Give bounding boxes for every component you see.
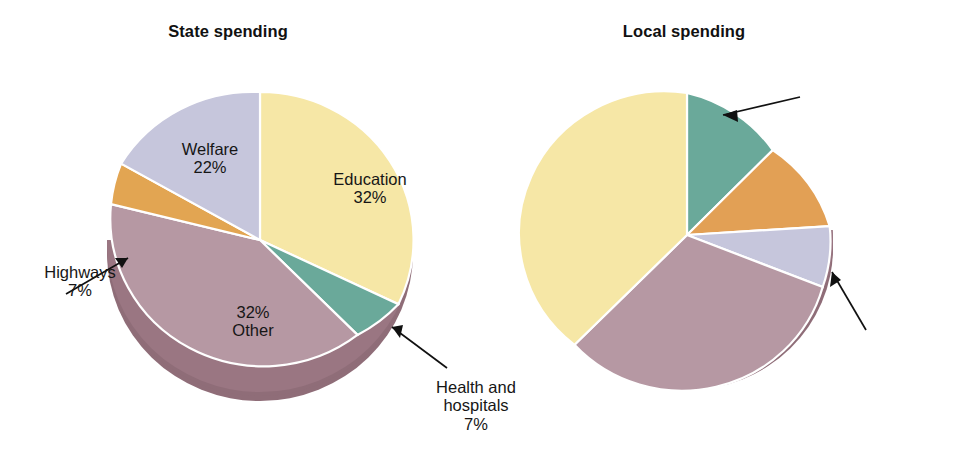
label-state-welfare: Welfare 22% — [150, 140, 270, 177]
local-pie-slices — [519, 91, 831, 390]
label-state-highways-name: Highways — [12, 263, 148, 281]
label-state-welfare-name: Welfare — [150, 140, 270, 158]
label-state-other-name: Other — [198, 321, 308, 339]
label-state-other: 32% Other — [198, 303, 308, 340]
state-spending-chart: State spending — [0, 0, 500, 464]
label-state-education: Education 32% — [306, 170, 434, 207]
local-pie-stage — [470, 0, 958, 464]
leader-arrow-health — [392, 325, 403, 338]
label-state-education-pct: 32% — [306, 188, 434, 206]
local-pie-svg — [470, 0, 958, 464]
label-state-education-name: Education — [306, 170, 434, 188]
label-state-other-pct: 32% — [198, 303, 308, 321]
label-state-welfare-pct: 22% — [150, 158, 270, 176]
label-state-highways-pct: 7% — [12, 281, 148, 299]
local-spending-chart: Local spending — [470, 0, 958, 464]
label-state-highways: Highways 7% — [12, 263, 148, 300]
